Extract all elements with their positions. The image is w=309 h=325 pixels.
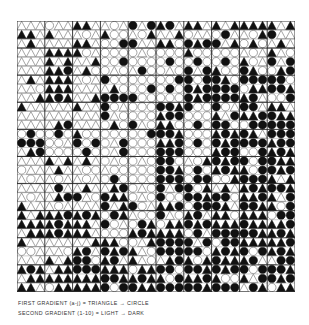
circle-shape	[45, 139, 53, 147]
circle-shape	[175, 238, 183, 246]
circle-shape	[277, 148, 285, 156]
circle-shape	[110, 30, 118, 38]
circle-shape	[64, 247, 72, 255]
circle-shape	[231, 265, 239, 273]
circle-shape	[55, 139, 63, 147]
circle-shape	[138, 148, 146, 156]
circle-shape	[194, 112, 202, 120]
circle-shape	[203, 175, 211, 183]
circle-shape	[101, 229, 109, 237]
circle-shape	[212, 39, 220, 47]
shape-grid	[17, 21, 295, 292]
circle-shape	[110, 166, 118, 174]
circle-shape	[240, 175, 248, 183]
circle-shape	[36, 148, 44, 156]
circle-shape	[194, 139, 202, 147]
circle-shape	[212, 30, 220, 38]
circle-shape	[212, 103, 220, 111]
circle-shape	[203, 39, 211, 47]
circle-shape	[221, 57, 229, 65]
circle-shape	[147, 103, 155, 111]
circle-shape	[277, 211, 285, 219]
circle-shape	[194, 148, 202, 156]
circle-shape	[268, 57, 276, 65]
circle-shape	[286, 166, 294, 174]
circle-shape	[147, 211, 155, 219]
circle-shape	[55, 130, 63, 138]
circle-shape	[277, 265, 285, 273]
circle-shape	[268, 283, 276, 291]
circle-shape	[129, 202, 137, 210]
circle-shape	[166, 283, 174, 291]
circle-shape	[129, 175, 137, 183]
circle-shape	[203, 220, 211, 228]
circle-shape	[175, 67, 183, 75]
circle-shape	[129, 121, 137, 129]
circle-shape	[64, 130, 72, 138]
circle-shape	[166, 238, 174, 246]
circle-shape	[268, 112, 276, 120]
circle-shape	[203, 247, 211, 255]
circle-shape	[101, 94, 109, 102]
circle-shape	[156, 157, 164, 165]
circle-shape	[212, 57, 220, 65]
circle-shape	[138, 76, 146, 84]
circle-shape	[240, 121, 248, 129]
circle-shape	[156, 283, 164, 291]
circle-shape	[221, 166, 229, 174]
circle-shape	[258, 265, 266, 273]
circle-shape	[129, 139, 137, 147]
circle-shape	[156, 175, 164, 183]
circle-shape	[166, 166, 174, 174]
circle-shape	[175, 157, 183, 165]
circle-shape	[184, 112, 192, 120]
circle-shape	[147, 256, 155, 264]
circle-shape	[286, 211, 294, 219]
circle-shape	[27, 175, 35, 183]
circle-shape	[138, 139, 146, 147]
circle-shape	[231, 157, 239, 165]
circle-shape	[64, 67, 72, 75]
circle-shape	[194, 184, 202, 192]
circle-shape	[119, 229, 127, 237]
circle-shape	[286, 76, 294, 84]
circle-shape	[249, 265, 257, 273]
circle-shape	[258, 112, 266, 120]
circle-shape	[110, 283, 118, 291]
circle-shape	[147, 157, 155, 165]
circle-shape	[82, 76, 90, 84]
circle-shape	[240, 229, 248, 237]
circle-shape	[129, 184, 137, 192]
circle-shape	[231, 67, 239, 75]
circle-shape	[249, 57, 257, 65]
circle-shape	[82, 48, 90, 56]
circle-shape	[101, 76, 109, 84]
circle-shape	[175, 184, 183, 192]
circle-shape	[138, 94, 146, 102]
circle-shape	[119, 283, 127, 291]
circle-shape	[138, 57, 146, 65]
circle-shape	[36, 130, 44, 138]
circle-shape	[286, 121, 294, 129]
circle-shape	[166, 265, 174, 273]
circle-shape	[249, 247, 257, 255]
circle-shape	[175, 85, 183, 93]
circle-shape	[231, 283, 239, 291]
circle-shape	[175, 76, 183, 84]
circle-shape	[184, 193, 192, 201]
circle-shape	[221, 175, 229, 183]
circle-shape	[73, 265, 81, 273]
circle-shape	[17, 166, 25, 174]
circle-shape	[268, 130, 276, 138]
circle-shape	[184, 139, 192, 147]
circle-shape	[249, 256, 257, 264]
circle-shape	[175, 112, 183, 120]
circle-shape	[156, 130, 164, 138]
circle-shape	[286, 256, 294, 264]
circle-shape	[212, 202, 220, 210]
circle-shape	[231, 274, 239, 282]
circle-shape	[203, 148, 211, 156]
circle-shape	[101, 130, 109, 138]
circle-shape	[203, 121, 211, 129]
circle-shape	[175, 274, 183, 282]
